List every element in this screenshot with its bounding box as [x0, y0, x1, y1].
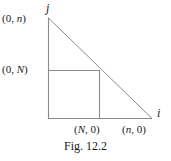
label-n0-variable: n — [126, 123, 132, 135]
figure-container: (0, n) (0, N) (N, 0) (n, 0) j i Fig. 12.… — [0, 0, 171, 161]
label-point-N-0: (N, 0) — [74, 124, 100, 135]
figure-drawing — [0, 0, 171, 161]
label-point-n-0: (n, 0) — [122, 124, 146, 135]
label-0n-variable: n — [17, 12, 23, 24]
triangle-hypotenuse — [49, 18, 153, 119]
label-0N-variable: N — [17, 63, 24, 75]
axis-label-horizontal: i — [157, 107, 160, 119]
label-point-0-N: (0, N) — [2, 64, 28, 75]
label-N0-variable: N — [78, 123, 85, 135]
figure-caption: Fig. 12.2 — [0, 140, 171, 153]
axis-label-vertical: j — [46, 2, 49, 14]
label-point-0-n: (0, n) — [2, 13, 26, 24]
